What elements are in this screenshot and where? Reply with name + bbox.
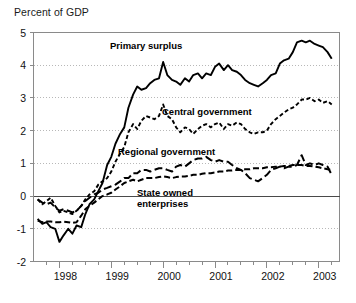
- x-tick-2003: 2003: [305, 271, 345, 282]
- y-tick-3: 3: [2, 93, 26, 104]
- x-tick-1999: 1999: [97, 271, 137, 282]
- x-tick-1998: 1998: [45, 271, 85, 282]
- y-axis-ticks: [30, 33, 34, 262]
- data-series-group: [38, 41, 332, 242]
- series-label-regional-government: Regional government: [118, 147, 215, 158]
- series-line-primary-surplus: [38, 41, 332, 242]
- series-label-state-owned-enterprises: State owned enterprises: [137, 188, 193, 210]
- series-label-central-government: Central government: [162, 107, 252, 118]
- y-tick-5: 5: [2, 28, 26, 39]
- y-tick--1: -1: [2, 224, 26, 235]
- x-tick-2001: 2001: [201, 271, 241, 282]
- state-owned-line2: enterprises: [137, 198, 188, 209]
- x-axis-ticks: [46, 262, 331, 268]
- y-tick-4: 4: [2, 60, 26, 71]
- y-tick-1: 1: [2, 158, 26, 169]
- y-tick-0: 0: [2, 191, 26, 202]
- y-tick-2: 2: [2, 126, 26, 137]
- state-owned-line1: State owned: [137, 187, 193, 198]
- x-tick-2002: 2002: [253, 271, 293, 282]
- chart-container: Percent of GDP 543210-1-2 19981999200020…: [0, 0, 356, 303]
- y-tick--2: -2: [2, 257, 26, 268]
- series-label-primary-surplus: Primary surplus: [110, 41, 182, 52]
- x-tick-2000: 2000: [149, 271, 189, 282]
